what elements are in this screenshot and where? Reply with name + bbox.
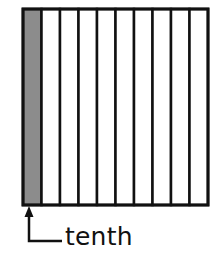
tenth-strip — [60, 9, 79, 205]
shaded-tenth-strip — [23, 9, 42, 205]
tenth-strip — [42, 9, 61, 205]
tenths-diagram — [0, 0, 220, 258]
tenths-grid — [23, 9, 208, 205]
tenth-strip — [116, 9, 135, 205]
tenth-strip — [97, 9, 116, 205]
arrow-elbow-line — [29, 215, 62, 241]
tenth-strip — [79, 9, 98, 205]
tenth-strip — [134, 9, 153, 205]
tenth-strip — [153, 9, 172, 205]
tenth-strip — [190, 9, 209, 205]
tenth-label: tenth — [65, 222, 133, 252]
tenth-strip — [171, 9, 190, 205]
arrow-up-icon — [25, 206, 34, 217]
arrow-pointer — [25, 206, 63, 241]
